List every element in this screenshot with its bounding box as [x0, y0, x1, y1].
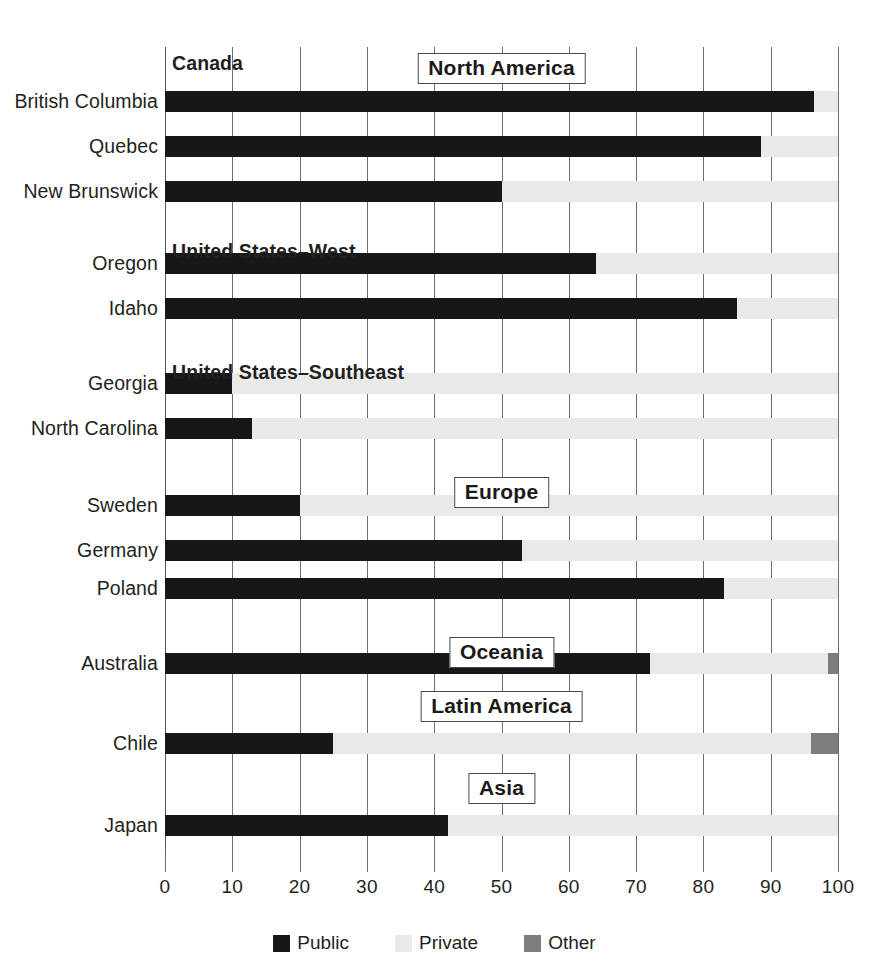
- chart-row: Chile: [0, 733, 869, 754]
- bar-track: [165, 91, 838, 112]
- legend-label: Private: [419, 932, 478, 954]
- legend-item-private: Private: [395, 932, 478, 954]
- category-label: Sweden: [87, 494, 158, 517]
- region-heading: Oceania: [449, 637, 554, 668]
- chart-row: Sweden: [0, 495, 869, 516]
- tick-mark-70: [636, 850, 637, 872]
- bar-track: [165, 815, 838, 836]
- bar-segment-private: [448, 815, 838, 836]
- bar-track: [165, 136, 838, 157]
- legend-swatch-other-icon: [524, 935, 541, 952]
- x-tick-label: 60: [558, 876, 580, 898]
- bar-segment-private: [333, 733, 811, 754]
- bar-segment-private: [252, 418, 838, 439]
- chart-row: Australia: [0, 653, 869, 674]
- chart-row: Germany: [0, 540, 869, 561]
- category-label: Oregon: [92, 252, 158, 275]
- category-label: Poland: [97, 577, 158, 600]
- gridline-60: [569, 47, 570, 850]
- subgroup-heading: United States–Southeast: [172, 361, 404, 384]
- tick-mark-60: [569, 850, 570, 872]
- bar-segment-private: [814, 91, 838, 112]
- chart-row: Idaho: [0, 298, 869, 319]
- tick-mark-100: [838, 850, 839, 872]
- bar-segment-other: [811, 733, 838, 754]
- gridline-90: [771, 47, 772, 850]
- gridline-50: [502, 47, 503, 850]
- plot-area: [165, 47, 838, 850]
- legend-item-other: Other: [524, 932, 596, 954]
- bar-track: [165, 578, 838, 599]
- x-tick-label: 0: [160, 876, 171, 898]
- chart-legend: PublicPrivateOther: [0, 932, 869, 954]
- gridline-0: [165, 47, 166, 850]
- legend-swatch-public-icon: [273, 935, 290, 952]
- category-label: New Brunswick: [23, 180, 158, 203]
- gridline-30: [367, 47, 368, 850]
- bar-track: [165, 298, 838, 319]
- tick-mark-40: [434, 850, 435, 872]
- legend-label: Public: [297, 932, 349, 954]
- gridline-100: [838, 47, 839, 850]
- gridline-10: [232, 47, 233, 850]
- bar-track: [165, 418, 838, 439]
- tick-mark-0: [165, 850, 166, 872]
- x-tick-label: 70: [625, 876, 647, 898]
- gridline-80: [703, 47, 704, 850]
- chart-row: Georgia: [0, 373, 869, 394]
- region-heading: Asia: [468, 773, 535, 804]
- category-label: Germany: [77, 539, 158, 562]
- bar-track: [165, 733, 838, 754]
- region-heading: Europe: [454, 477, 550, 508]
- x-tick-label: 30: [356, 876, 378, 898]
- bar-segment-public: [165, 578, 724, 599]
- bar-segment-other: [828, 653, 838, 674]
- bar-segment-public: [165, 181, 502, 202]
- bar-segment-private: [596, 253, 838, 274]
- tick-mark-90: [771, 850, 772, 872]
- tick-mark-80: [703, 850, 704, 872]
- gridline-70: [636, 47, 637, 850]
- bar-segment-private: [502, 181, 839, 202]
- legend-label: Other: [548, 932, 596, 954]
- bar-track: [165, 540, 838, 561]
- bar-segment-public: [165, 418, 252, 439]
- category-label: British Columbia: [14, 90, 158, 113]
- chart-row: British Columbia: [0, 91, 869, 112]
- bar-segment-private: [724, 578, 838, 599]
- category-label: Idaho: [109, 297, 158, 320]
- chart-row: Japan: [0, 815, 869, 836]
- bar-segment-private: [761, 136, 838, 157]
- category-label: Georgia: [88, 372, 158, 395]
- tick-mark-50: [502, 850, 503, 872]
- chart-row: North Carolina: [0, 418, 869, 439]
- stacked-bar-chart: 0102030405060708090100 British ColumbiaQ…: [0, 0, 869, 977]
- bar-segment-public: [165, 298, 737, 319]
- bar-segment-public: [165, 136, 761, 157]
- bar-segment-public: [165, 733, 333, 754]
- tick-mark-10: [232, 850, 233, 872]
- chart-row: Poland: [0, 578, 869, 599]
- legend-swatch-private-icon: [395, 935, 412, 952]
- subgroup-heading: Canada: [172, 52, 243, 75]
- bar-track: [165, 181, 838, 202]
- category-label: Australia: [81, 652, 158, 675]
- bar-segment-public: [165, 540, 522, 561]
- category-label: North Carolina: [31, 417, 158, 440]
- x-tick-label: 20: [289, 876, 311, 898]
- x-tick-label: 80: [693, 876, 715, 898]
- region-heading: North America: [417, 53, 586, 84]
- tick-mark-20: [300, 850, 301, 872]
- bar-segment-private: [737, 298, 838, 319]
- bar-segment-private: [650, 653, 828, 674]
- gridline-40: [434, 47, 435, 850]
- x-tick-label: 10: [222, 876, 244, 898]
- subgroup-heading: United States–West: [172, 240, 356, 263]
- bar-segment-public: [165, 495, 300, 516]
- bar-segment-public: [165, 653, 650, 674]
- x-tick-label: 40: [423, 876, 445, 898]
- chart-row: Quebec: [0, 136, 869, 157]
- chart-row: Oregon: [0, 253, 869, 274]
- x-tick-label: 90: [760, 876, 782, 898]
- bar-segment-public: [165, 91, 814, 112]
